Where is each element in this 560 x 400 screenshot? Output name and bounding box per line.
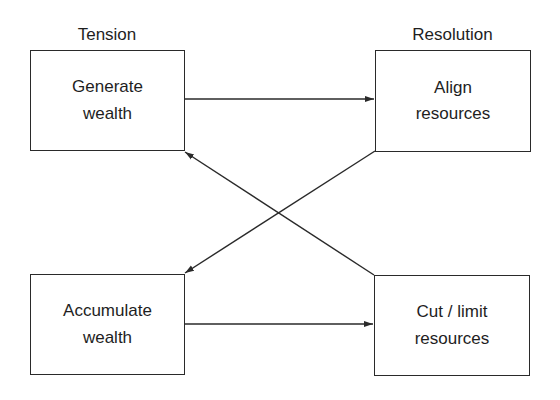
- node-accumulate-wealth: Accumulate wealth: [30, 274, 185, 375]
- node-cut-limit-resources: Cut / limit resources: [374, 275, 530, 376]
- node-align-resources: Align resources: [375, 50, 531, 152]
- node-label-line2: wealth: [63, 325, 152, 351]
- node-generate-wealth: Generate wealth: [30, 50, 185, 151]
- node-label-line1: Cut / limit: [415, 299, 490, 325]
- node-label-line2: resources: [416, 101, 491, 127]
- node-label-line1: Generate: [72, 74, 143, 100]
- node-label-line2: resources: [415, 326, 490, 352]
- node-label-line1: Align: [416, 75, 491, 101]
- node-label-line2: wealth: [72, 101, 143, 127]
- arrow-align-to-accumulate: [185, 151, 375, 273]
- node-label-line1: Accumulate: [63, 298, 152, 324]
